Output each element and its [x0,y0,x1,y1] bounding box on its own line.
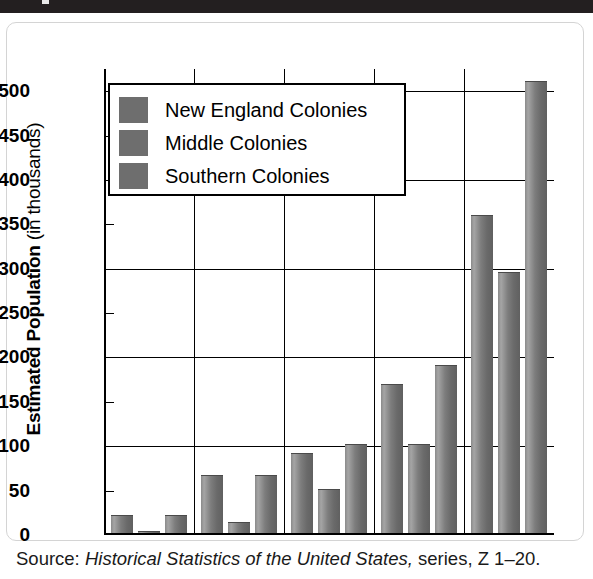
legend-swatch-icon [119,97,148,123]
population-bar-chart-figure: Estimated Population (in thousands) 0501… [0,0,593,579]
chart-panel: Estimated Population (in thousands) 0501… [6,22,584,541]
legend-item: Southern Colonies [119,160,404,192]
legend-item-label: Southern Colonies [165,165,330,188]
source-suffix: series, Z 1–20. [418,548,540,569]
source-caption: Source: Historical Statistics of the Uni… [16,548,540,570]
title-band-notch [42,0,49,4]
y-axis-tick-label: 250 [0,302,30,324]
y-axis-tick-label: 150 [0,391,30,413]
y-axis-tick-label: 350 [0,213,30,235]
y-axis-tick-label: 200 [0,346,30,368]
top-title-band [0,0,593,13]
y-axis-tick-label: 0 [0,524,30,546]
y-axis-tick-label: 50 [0,480,30,502]
y-axis-tick-label: 300 [0,258,30,280]
chart-legend: New England Colonies Middle Colonies Sou… [108,83,406,196]
legend-item: Middle Colonies [119,127,404,159]
source-title: Historical Statistics of the United Stat… [85,548,413,569]
source-prefix: Source: [16,548,80,569]
y-axis-tick-label: 450 [0,125,30,147]
y-axis-tick-label: 100 [0,435,30,457]
legend-item-label: Middle Colonies [165,132,307,155]
legend-swatch-icon [119,130,148,156]
legend-swatch-icon [119,163,148,189]
legend-item: New England Colonies [119,94,404,126]
legend-item-label: New England Colonies [165,99,367,122]
y-axis-tick-label: 500 [0,80,30,102]
y-axis-tick-label: 400 [0,169,30,191]
